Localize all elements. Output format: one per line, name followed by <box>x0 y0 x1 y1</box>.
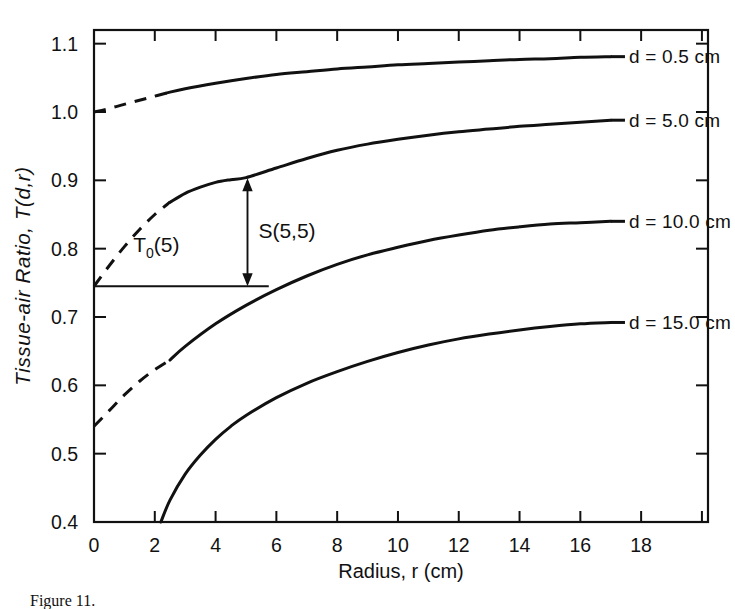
x-axis-title: Radius, r (cm) <box>338 560 464 582</box>
y-tick-label-0.8: 0.8 <box>51 238 78 260</box>
x-tick-label-8: 8 <box>332 534 343 556</box>
x-axis-tick-labels: 024681012141618 <box>89 534 652 556</box>
t0-label-subscript: 0 <box>146 245 154 261</box>
y-tick-label-0.6: 0.6 <box>51 374 78 396</box>
s55-arrowhead-bottom <box>242 273 252 286</box>
s55-double-arrow <box>242 178 252 286</box>
figure-container: 024681012141618 0.40.50.60.70.80.91.01.1… <box>0 0 735 609</box>
t0-label-main: T <box>133 233 146 256</box>
x-tick-label-16: 16 <box>569 534 591 556</box>
y-tick-label-1.1: 1.1 <box>51 33 78 55</box>
s55-label: S(5,5) <box>258 219 315 242</box>
x-tick-label-12: 12 <box>448 534 470 556</box>
x-tick-label-18: 18 <box>630 534 652 556</box>
curve-0 <box>167 57 611 93</box>
x-tick-label-0: 0 <box>89 534 100 556</box>
y-axis-title: Tissue-air Ratio, T(d,r) <box>11 166 34 385</box>
curve-dashed-buildup-0 <box>94 93 167 112</box>
plot-frame <box>94 30 708 522</box>
curve-label-1: d = 5.0 cm <box>629 110 720 131</box>
y-axis-tick-labels: 0.40.50.60.70.80.91.01.1 <box>51 33 78 533</box>
s55-arrowhead-top <box>242 178 252 191</box>
curve-labels: d = 0.5 cmd = 5.0 cmd = 10.0 cmd = 15.0 … <box>629 46 731 333</box>
x-tick-label-6: 6 <box>271 534 282 556</box>
x-axis-ticks-top <box>94 30 702 41</box>
y-tick-label-0.7: 0.7 <box>51 306 78 328</box>
x-tick-label-14: 14 <box>509 534 531 556</box>
figure-caption: Figure 11. <box>30 592 95 609</box>
data-curves <box>94 57 625 522</box>
curve-2 <box>170 221 611 360</box>
curve-label-0: d = 0.5 cm <box>629 46 720 67</box>
y-tick-label-0.4: 0.4 <box>51 511 78 533</box>
y-axis-ticks-left <box>94 44 106 454</box>
chart-annotations: S(5,5) T0(5) <box>94 178 316 286</box>
curve-1 <box>170 120 611 202</box>
tissue-air-ratio-chart: 024681012141618 0.40.50.60.70.80.91.01.1… <box>0 0 735 609</box>
t0-label: T0(5) <box>133 233 179 261</box>
x-tick-label-4: 4 <box>210 534 221 556</box>
y-tick-label-0.5: 0.5 <box>51 443 78 465</box>
t0-label-tail: (5) <box>154 233 180 256</box>
curve-label-3: d = 15.0 cm <box>629 312 731 333</box>
y-tick-label-0.9: 0.9 <box>51 169 78 191</box>
y-tick-label-1.0: 1.0 <box>51 101 78 123</box>
curve-3 <box>161 322 611 522</box>
x-tick-label-2: 2 <box>149 534 160 556</box>
curve-dashed-buildup-2 <box>94 360 170 426</box>
curve-label-2: d = 10.0 cm <box>629 211 731 232</box>
x-tick-label-10: 10 <box>387 534 409 556</box>
x-axis-ticks-bottom <box>155 511 702 522</box>
